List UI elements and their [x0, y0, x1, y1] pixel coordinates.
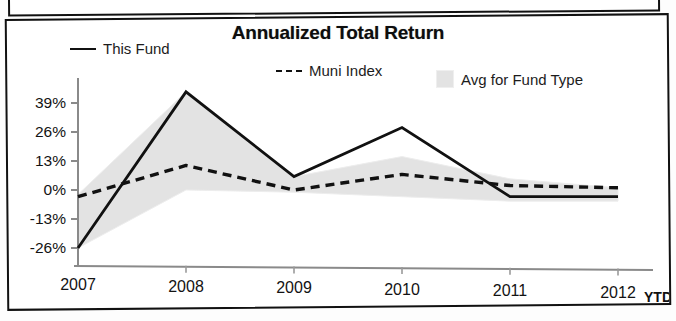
x-axis-ytd-label: YTD [644, 289, 671, 305]
x-axis-tick-label: 2007 [60, 276, 96, 294]
chart-inner: Annualized Total Return This Fund Muni I… [8, 18, 668, 306]
x-axis-labels: 200720082009201020112012 [8, 18, 668, 306]
x-axis-tick-label: 2009 [276, 279, 312, 297]
x-axis-tick-label: 2008 [168, 278, 204, 296]
chart-frame: Annualized Total Return This Fund Muni I… [5, 13, 672, 311]
plot-area: 39%26%13%0%-13%-26% 20072008200920102011… [8, 18, 668, 306]
x-axis-tick-label: 2010 [384, 281, 420, 299]
x-axis-tick-label: 2011 [493, 282, 527, 300]
x-axis-tick-label: 2012 [600, 284, 636, 302]
